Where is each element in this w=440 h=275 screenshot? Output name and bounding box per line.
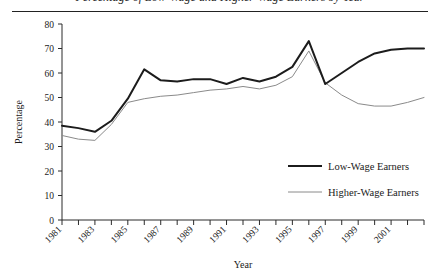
y-tick-label-30: 30 — [45, 142, 55, 152]
y-tick-label-50: 50 — [45, 93, 55, 103]
data-series-group — [62, 41, 424, 140]
x-tick-label-1989: 1989 — [175, 224, 196, 245]
x-axis-ticks — [62, 220, 424, 225]
x-tick-label-1991: 1991 — [207, 224, 228, 245]
y-axis-ticks — [58, 24, 62, 220]
series-line-higher-wage-earners — [62, 51, 424, 140]
y-tick-label-0: 0 — [49, 216, 54, 226]
x-axis-title: Year — [234, 259, 253, 270]
y-tick-label-10: 10 — [45, 191, 55, 201]
x-tick-label-1983: 1983 — [76, 224, 97, 245]
y-axis-tick-labels: 01020304050607080 — [45, 20, 55, 226]
chart-legend: Low-Wage Earners Higher-Wage Earners — [288, 161, 419, 198]
figure-container: Percentage of Low-Wage and Higher-Wage E… — [0, 0, 440, 275]
y-tick-label-70: 70 — [45, 44, 55, 54]
x-axis-tick-labels: 1981198319851987198919911993199519971999… — [43, 224, 393, 245]
x-tick-label-1981: 1981 — [43, 224, 64, 245]
y-axis-title: Percentage — [13, 100, 24, 144]
legend-label-low-wage-earners: Low-Wage Earners — [328, 161, 409, 172]
x-tick-label-1995: 1995 — [273, 224, 294, 245]
legend-label-higher-wage-earners: Higher-Wage Earners — [328, 187, 419, 198]
x-tick-label-1985: 1985 — [109, 224, 130, 245]
y-tick-label-40: 40 — [45, 118, 55, 128]
x-tick-label-1993: 1993 — [240, 224, 261, 245]
x-tick-label-1997: 1997 — [306, 224, 327, 245]
y-tick-label-60: 60 — [45, 69, 55, 79]
x-tick-label-1999: 1999 — [339, 224, 360, 245]
y-tick-label-80: 80 — [45, 20, 55, 30]
chart-svg: 01020304050607080 1981198319851987198919… — [0, 0, 440, 275]
x-tick-label-2001: 2001 — [372, 224, 393, 245]
x-tick-label-1987: 1987 — [142, 224, 163, 245]
y-tick-label-20: 20 — [45, 167, 55, 177]
